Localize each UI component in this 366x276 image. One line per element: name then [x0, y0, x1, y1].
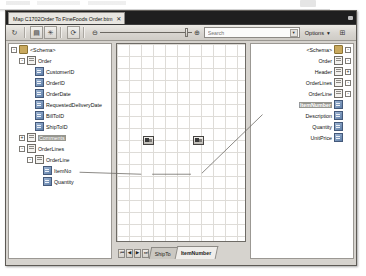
test-map-button[interactable]: ▤: [30, 26, 43, 39]
field-node-icon: [35, 89, 44, 98]
source-tree-item[interactable]: CustomerID: [9, 66, 111, 77]
document-tab-map[interactable]: Map C1702Order To FineFoods Order.btm ✕: [8, 12, 125, 24]
field-node-icon: [35, 78, 44, 87]
collapse-icon[interactable]: -: [345, 80, 351, 86]
toolbar-separator: [83, 27, 85, 38]
field-node-icon: [334, 100, 343, 109]
record-node-icon: [334, 89, 343, 98]
grid-layout-button[interactable]: ⊞: [336, 26, 349, 39]
record-node-icon: [35, 155, 44, 164]
background-ghost-button: [300, 0, 316, 7]
target-schema-tree[interactable]: <Schema>-Order-Header+OrderLines-OrderLi…: [250, 43, 354, 259]
collapse-icon[interactable]: -: [345, 47, 351, 53]
target-tree-item[interactable]: Quantity: [251, 121, 353, 132]
map-grid[interactable]: [116, 43, 246, 242]
source-tree-item[interactable]: RequestedDeliveryDate: [9, 99, 111, 110]
map-editor-window: Map C1702Order To FineFoods Order.btm ✕ …: [5, 10, 357, 266]
schema-folder-icon: [19, 45, 28, 54]
map-page-tab-itemnumber[interactable]: ItemNumber: [174, 246, 218, 259]
validate-map-button[interactable]: ↻: [8, 26, 21, 39]
zoom-control[interactable]: ⊖ ⊕: [92, 28, 200, 37]
close-icon[interactable]: ✕: [116, 16, 121, 22]
target-tree-item[interactable]: UnitPrice: [251, 132, 353, 143]
search-dropdown-button[interactable]: ▾: [290, 29, 298, 37]
validate-instance-icon: ✳: [48, 29, 54, 36]
zoom-slider-track: [100, 32, 192, 33]
background-ghost-strip: [6, 1, 126, 5]
zoom-out-icon[interactable]: ⊖: [92, 29, 98, 36]
source-tree-item[interactable]: ShipToID: [9, 121, 111, 132]
refresh-icon: ⟳: [71, 29, 77, 36]
collapse-icon[interactable]: -: [27, 157, 33, 163]
source-tree-item[interactable]: OrderDate: [9, 88, 111, 99]
first-page-icon: ⏮: [120, 251, 124, 256]
field-node-icon: [334, 133, 343, 142]
zoom-slider[interactable]: [100, 28, 192, 37]
source-tree-item-label: OrderDate: [46, 91, 71, 97]
page-navigation-buttons[interactable]: ⏮◀▶⏭: [116, 248, 151, 259]
tab-overflow-icon[interactable]: [348, 16, 353, 20]
tree-spacer: [345, 102, 351, 108]
field-node-icon: [334, 111, 343, 120]
target-tree-item-label: UnitPrice: [311, 135, 333, 141]
field-node-icon: [35, 67, 44, 76]
tree-spacer: [27, 91, 33, 97]
screenshot-root: Map C1702Order To FineFoods Order.btm ✕ …: [0, 0, 366, 276]
source-tree-item-label: Quantity: [54, 179, 74, 185]
source-tree-item[interactable]: +Comments: [9, 132, 111, 143]
zoom-slider-thumb[interactable]: [185, 28, 188, 37]
functoid-node-1[interactable]: [143, 136, 154, 145]
source-tree-item[interactable]: Quantity: [9, 176, 111, 187]
collapse-icon[interactable]: -: [345, 91, 351, 97]
source-tree-item[interactable]: ItemNo: [9, 165, 111, 176]
options-label: Options: [305, 30, 324, 36]
validate-instance-button[interactable]: ✳: [44, 26, 57, 39]
search-field[interactable]: [208, 30, 282, 36]
last-page-button[interactable]: ⏭: [142, 249, 149, 258]
collapse-icon[interactable]: -: [345, 58, 351, 64]
previous-page-icon: ◀: [128, 251, 132, 256]
expand-icon[interactable]: +: [19, 135, 25, 141]
zoom-in-icon[interactable]: ⊕: [194, 29, 200, 36]
target-tree-item[interactable]: OrderLine-: [251, 88, 353, 99]
map-page-tabs[interactable]: ShipToItemNumber: [151, 246, 217, 259]
source-tree-item[interactable]: -<Schema>: [9, 44, 111, 55]
search-input[interactable]: ▾: [204, 27, 300, 38]
target-tree-item[interactable]: <Schema>-: [251, 44, 353, 55]
map-page-tab-label: ShipTo: [155, 251, 171, 257]
source-tree-item[interactable]: OrderID: [9, 77, 111, 88]
target-tree-item[interactable]: Description: [251, 110, 353, 121]
source-schema-tree[interactable]: -<Schema>-OrderCustomerIDOrderIDOrderDat…: [8, 43, 112, 259]
source-tree-item[interactable]: -OrderLines: [9, 143, 111, 154]
first-page-button[interactable]: ⏮: [118, 249, 125, 258]
target-tree-item[interactable]: OrderLines-: [251, 77, 353, 88]
target-tree-item[interactable]: ItemNumber: [251, 99, 353, 110]
validate-map-icon: ↻: [12, 29, 18, 36]
next-page-button[interactable]: ▶: [134, 249, 141, 258]
source-tree-item[interactable]: -Order: [9, 55, 111, 66]
functoid-node-2[interactable]: [193, 136, 204, 145]
tree-spacer: [345, 135, 351, 141]
options-menu-button[interactable]: Options ▾: [305, 30, 330, 36]
record-node-icon: [27, 133, 36, 142]
collapse-icon[interactable]: -: [11, 47, 17, 53]
map-page-tab-shipto[interactable]: ShipTo: [149, 247, 178, 259]
chevron-down-icon: ▾: [327, 30, 330, 36]
collapse-icon[interactable]: -: [19, 146, 25, 152]
map-page-tab-bar: ⏮◀▶⏭ ShipToItemNumber: [116, 244, 246, 259]
previous-page-button[interactable]: ◀: [126, 249, 133, 258]
collapse-icon[interactable]: -: [19, 58, 25, 64]
target-tree-item[interactable]: Header+: [251, 66, 353, 77]
field-node-icon: [334, 122, 343, 131]
target-tree-item-label: <Schema>: [306, 47, 332, 53]
refresh-button[interactable]: ⟳: [67, 26, 80, 39]
source-tree-item[interactable]: -OrderLine: [9, 154, 111, 165]
source-tree-item-label: RequestedDeliveryDate: [46, 102, 102, 108]
record-node-icon: [27, 144, 36, 153]
expand-icon[interactable]: +: [345, 69, 351, 75]
target-tree-item[interactable]: Order-: [251, 55, 353, 66]
field-node-icon: [35, 122, 44, 131]
field-node-icon: [43, 177, 52, 186]
field-node-icon: [35, 111, 44, 120]
source-tree-item[interactable]: BillToID: [9, 110, 111, 121]
